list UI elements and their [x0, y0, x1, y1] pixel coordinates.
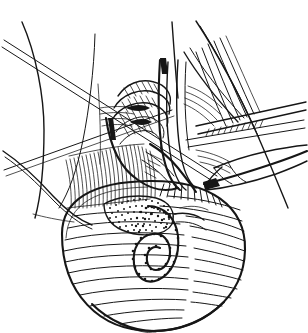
illustration-canvas: [0, 0, 308, 333]
surgical-illustration-figure: Surgical exposure of testis and spermati…: [0, 0, 308, 333]
